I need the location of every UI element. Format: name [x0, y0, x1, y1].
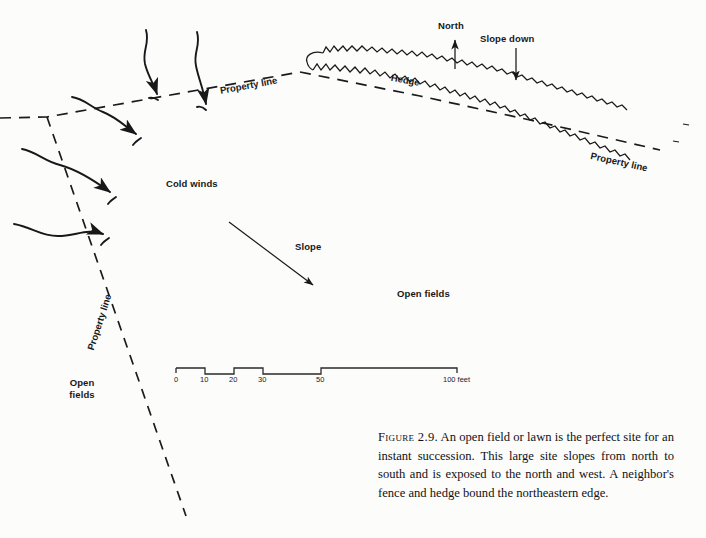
slope-arrow — [229, 222, 313, 285]
scale-tick-10: 10 — [200, 375, 208, 384]
open-fields-line-1: Open — [70, 377, 95, 388]
figure-number: Figure 2.9. — [378, 430, 438, 444]
scale-bar — [176, 368, 457, 374]
label-slope: Slope — [295, 241, 321, 252]
scale-tick-30: 30 — [258, 375, 266, 384]
label-open-fields-center: Open fields — [397, 288, 450, 299]
scale-tick-50: 50 — [316, 375, 324, 384]
label-cold-winds: Cold winds — [166, 178, 218, 189]
scale-tick-0: 0 — [174, 375, 178, 384]
scale-tick-20: 20 — [229, 375, 237, 384]
figure-page: Property line Property line Property lin… — [0, 0, 706, 538]
cold-wind-arrows — [14, 30, 206, 245]
hedge-shape — [307, 46, 689, 160]
property-line-west — [47, 117, 186, 516]
label-slope-down: Slope down — [480, 33, 534, 44]
label-north: North — [438, 20, 464, 31]
scale-end-label: 100 feet — [443, 375, 470, 384]
property-line-northeast — [300, 72, 660, 150]
open-fields-line-2: fields — [69, 389, 94, 400]
label-open-fields-left: Open fields — [62, 377, 102, 401]
figure-caption: Figure 2.9. An open field or lawn is the… — [378, 428, 674, 502]
